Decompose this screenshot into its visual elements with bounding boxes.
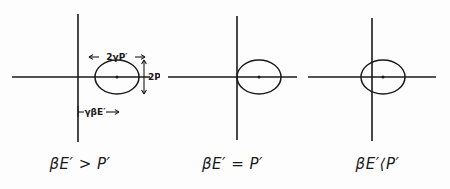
panel-1-offset-label: γβE′ [84, 107, 106, 117]
panel-1-diagram: 2γP′ 2P′ γβE′ [0, 0, 160, 150]
panel-3-diagram [305, 0, 450, 150]
momentum-ellipse-figure: 2γP′ 2P′ γβE′ βE′ > P′ [0, 0, 450, 189]
panel-1-width-label: 2γP′ [106, 52, 128, 62]
panel-1: 2γP′ 2P′ γβE′ βE′ > P′ [0, 0, 160, 189]
panel-1-offset-annotation: γβE′ [78, 106, 119, 117]
panel-2-ellipse-center-dot [258, 76, 261, 79]
panel-1-height-label: 2P′ [148, 72, 160, 82]
panel-2: βE′ = P′ [160, 0, 305, 189]
panel-1-width-annotation: 2γP′ [89, 52, 145, 62]
panel-1-ellipse-center-dot [116, 76, 119, 79]
panel-2-diagram [160, 0, 305, 150]
panel-1-height-annotation: 2P′ [142, 60, 160, 94]
panel-3-caption: βE′⟨P′ [305, 155, 450, 173]
panel-3: βE′⟨P′ [305, 0, 450, 189]
panel-1-caption: βE′ > P′ [0, 155, 160, 173]
panel-3-ellipse-center-dot [382, 76, 385, 79]
panel-2-caption: βE′ = P′ [160, 155, 305, 173]
